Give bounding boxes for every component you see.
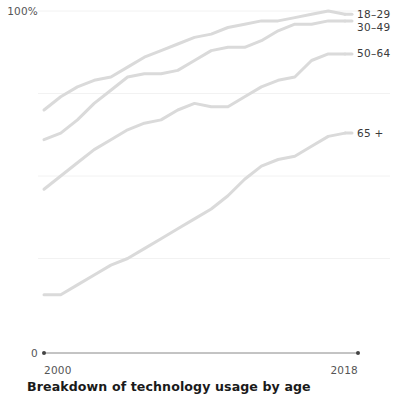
series-line-50-64 — [44, 54, 345, 189]
chart-container: 100%020002018 18–2930–4950–6465 + Breakd… — [0, 0, 399, 406]
y-axis-bottom-label: 0 — [31, 347, 38, 359]
series-label-50-64: 50–64 — [357, 47, 390, 59]
x-axis-group — [42, 351, 360, 355]
series-line-65+ — [44, 133, 345, 295]
x-axis-start-label: 2000 — [44, 364, 72, 376]
x-axis-end-dot — [356, 351, 360, 355]
series-labels-group: 18–2930–4950–6465 + — [357, 8, 390, 139]
chart-title: Breakdown of technology usage by age — [27, 379, 311, 394]
series-lines-group — [44, 11, 352, 295]
series-label-30-49: 30–49 — [357, 21, 390, 33]
axis-labels-group: 100%020002018 — [7, 5, 358, 376]
x-axis-start-dot — [42, 351, 46, 355]
x-axis-end-label: 2018 — [330, 364, 358, 376]
series-label-65+: 65 + — [357, 127, 384, 139]
line-chart-svg: 100%020002018 18–2930–4950–6465 + — [0, 0, 399, 406]
y-axis-top-label: 100% — [7, 5, 38, 17]
series-label-18-29: 18–29 — [357, 8, 390, 20]
